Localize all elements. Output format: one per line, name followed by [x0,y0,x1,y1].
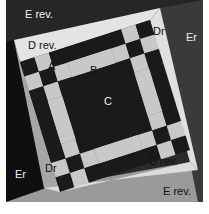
label-dr-right: Dr [153,25,165,37]
label-patch-c: C [104,95,112,107]
label-e-rev-top: E rev. [25,8,53,20]
label-er-right: Er [186,31,197,43]
label-e-rev-bottom: E rev. [163,185,191,197]
quilt-svg: E rev. D rev. Dr Er A B C Dr Er D rev. E… [0,0,209,214]
label-dr-left: Dr [45,162,57,174]
label-patch-a: A [48,60,56,72]
quilt-block-diagram: E rev. D rev. Dr Er A B C Dr Er D rev. E… [0,0,209,214]
label-patch-b: B [90,64,97,76]
label-d-rev-top: D rev. [28,39,57,51]
label-d-rev-bottom: D rev. [149,155,178,167]
label-er-left: Er [15,168,26,180]
